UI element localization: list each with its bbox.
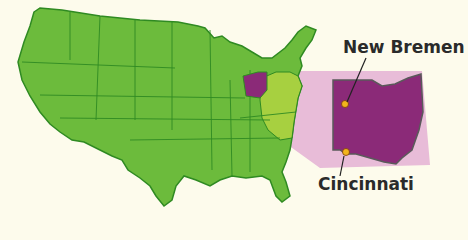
ohio-highlight xyxy=(243,72,267,98)
new-bremen-label: New Bremen xyxy=(343,37,465,57)
cincinnati-dot xyxy=(343,149,350,156)
cincinnati-label: Cincinnati xyxy=(318,174,414,194)
